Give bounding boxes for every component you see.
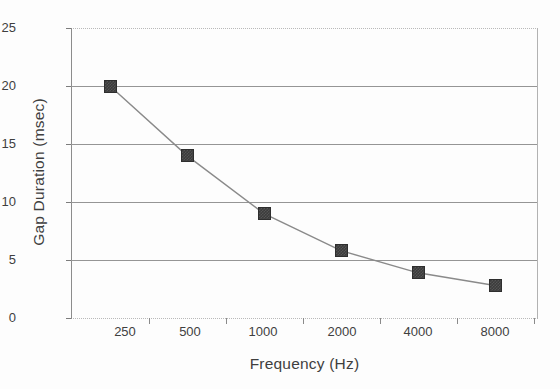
y-tick-label-0: 0 xyxy=(0,311,16,324)
x-tick-label-1000: 1000 xyxy=(233,325,293,338)
data-point-250 xyxy=(104,80,117,93)
data-point-4000 xyxy=(412,266,425,279)
series-line xyxy=(71,28,538,319)
y-tick-label-15: 15 xyxy=(0,137,16,150)
x-tick-label-8000: 8000 xyxy=(465,325,525,338)
x-tick-label-2000: 2000 xyxy=(312,325,372,338)
x-axis-title: Frequency (Hz) xyxy=(71,355,538,373)
x-tick-label-4000: 4000 xyxy=(388,325,448,338)
y-axis-title: Gap Duration (msec) xyxy=(30,32,48,312)
data-point-1000 xyxy=(258,207,271,220)
y-tick-label-10: 10 xyxy=(0,195,16,208)
data-point-8000 xyxy=(489,279,502,292)
y-tick-label-5: 5 xyxy=(0,253,16,266)
chart-figure: Gap Duration (msec) Frequency (Hz) 25 20… xyxy=(0,0,560,389)
x-tick-label-250: 250 xyxy=(95,325,155,338)
plot-area xyxy=(71,28,537,318)
data-point-500 xyxy=(181,149,194,162)
y-tick-label-25: 25 xyxy=(0,21,16,34)
x-tick-label-500: 500 xyxy=(160,325,220,338)
data-point-2000 xyxy=(335,244,348,257)
y-tick-label-20: 20 xyxy=(0,79,16,92)
